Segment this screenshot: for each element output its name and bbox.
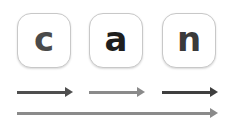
arrow-c-icon — [17, 91, 73, 94]
letter-a: a — [105, 22, 128, 56]
letter-n: n — [177, 22, 201, 56]
letter-tile-a: a — [89, 13, 143, 68]
letter-tile-n: n — [162, 13, 216, 68]
letter-tile-c: c — [17, 13, 71, 68]
arrow-word-icon — [17, 112, 218, 115]
letter-c: c — [34, 22, 54, 56]
arrow-a-icon — [89, 91, 145, 94]
arrow-n-icon — [162, 91, 218, 94]
